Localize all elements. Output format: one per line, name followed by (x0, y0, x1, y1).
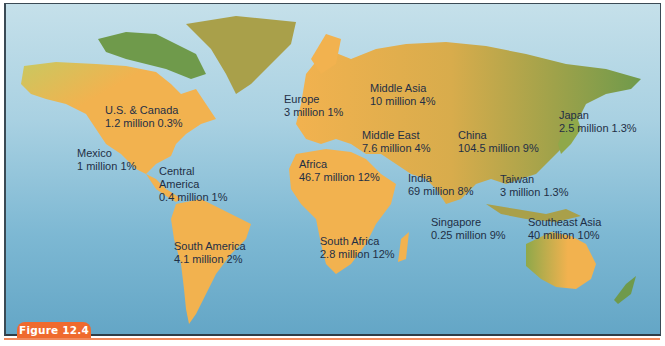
region-label-southeast-asia: Southeast Asia 40 million 10% (528, 216, 601, 242)
region-label-mexico: Mexico 1 million 1% (77, 147, 136, 173)
region-label-singapore: Singapore 0.25 million 9% (431, 216, 506, 242)
figure-rule (4, 338, 660, 340)
region-name: Southeast Asia (528, 216, 601, 229)
region-name: India (408, 172, 473, 185)
region-value: 0.25 million 9% (431, 229, 506, 242)
region-value: 2.8 million 12% (320, 248, 395, 261)
region-name-line2: America (159, 178, 227, 191)
region-name: Mexico (77, 147, 136, 160)
region-label-taiwan: Taiwan 3 million 1.3% (500, 173, 568, 199)
region-label-europe: Europe 3 million 1% (284, 93, 343, 119)
region-label-japan: Japan 2.5 million 1.3% (559, 109, 637, 135)
new-zealand (614, 276, 636, 304)
region-name: Middle Asia (370, 82, 435, 95)
region-name-line1: Central (159, 165, 227, 178)
region-name: South America (174, 240, 246, 253)
region-label-africa: Africa 46.7 million 12% (299, 158, 380, 184)
region-value: 46.7 million 12% (299, 171, 380, 184)
greenland (186, 16, 296, 94)
region-label-china: China 104.5 million 9% (458, 129, 539, 155)
region-name: Europe (284, 93, 343, 106)
region-value: 3 million 1.3% (500, 186, 568, 199)
region-name: Middle East (362, 129, 430, 142)
region-value: 104.5 million 9% (458, 142, 539, 155)
figure-badge: Figure 12.4 (17, 322, 91, 338)
region-value: 1.2 million 0.3% (105, 117, 183, 130)
region-label-central-america: Central America 0.4 million 1% (159, 165, 227, 204)
region-name: South Africa (320, 235, 395, 248)
region-name: Singapore (431, 216, 506, 229)
region-label-india: India 69 million 8% (408, 172, 473, 198)
region-label-south-africa: South Africa 2.8 million 12% (320, 235, 395, 261)
region-name: China (458, 129, 539, 142)
madagascar (398, 232, 409, 262)
region-value: 3 million 1% (284, 106, 343, 119)
region-label-us-canada: U.S. & Canada 1.2 million 0.3% (105, 104, 183, 130)
region-name: Japan (559, 109, 637, 122)
region-label-south-america: South America 4.1 million 2% (174, 240, 246, 266)
region-name: U.S. & Canada (105, 104, 183, 117)
region-value: 4.1 million 2% (174, 253, 246, 266)
region-name: Africa (299, 158, 380, 171)
region-label-middle-east: Middle East 7.6 million 4% (362, 129, 430, 155)
region-value: 10 million 4% (370, 95, 435, 108)
region-value: 7.6 million 4% (362, 142, 430, 155)
region-value: 40 million 10% (528, 229, 601, 242)
region-value: 0.4 million 1% (159, 191, 227, 204)
region-label-middle-asia: Middle Asia 10 million 4% (370, 82, 435, 108)
region-name: Taiwan (500, 173, 568, 186)
world-map: U.S. & Canada 1.2 million 0.3% Mexico 1 … (4, 3, 661, 336)
region-value: 69 million 8% (408, 185, 473, 198)
region-value: 1 million 1% (77, 160, 136, 173)
region-value: 2.5 million 1.3% (559, 122, 637, 135)
